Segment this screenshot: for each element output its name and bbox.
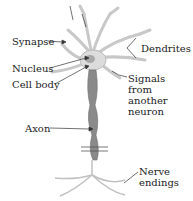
label-signals-3: another [128, 95, 168, 106]
label-endings: endings [139, 177, 179, 188]
label-cell-body: Cell body [12, 79, 60, 90]
label-signals-4: neuron [128, 106, 164, 117]
label-signals-2: from [128, 84, 152, 95]
axon-shape [88, 70, 99, 160]
label-dendrites: Dendrites [141, 43, 191, 54]
label-nerve: Nerve [139, 166, 170, 177]
neuron-diagram: Synapse Dendrites Nucleus Cell body Sign… [0, 0, 193, 201]
label-synapse: Synapse [12, 36, 54, 47]
nerve-endings [55, 160, 125, 196]
label-axon: Axon [25, 123, 50, 134]
label-nucleus: Nucleus [12, 63, 53, 74]
label-signals-1: Signals [128, 73, 165, 84]
